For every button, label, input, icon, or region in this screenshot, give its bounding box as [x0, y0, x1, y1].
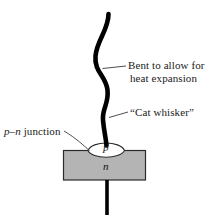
- label-heat-expansion-line2: heat expansion: [128, 72, 205, 85]
- figure-root: Bent to allow for heat expansion “Cat wh…: [0, 0, 223, 221]
- region-label-p: p: [103, 142, 109, 153]
- wavy-wire-icon: [95, 14, 108, 146]
- leader-line-bent-icon: [103, 66, 127, 69]
- label-heat-expansion-line1: Bent to allow for: [128, 59, 205, 71]
- region-label-n: n: [103, 161, 109, 172]
- leader-line-catwhisker-icon: [109, 112, 128, 118]
- label-pn-junction: p–n junction: [4, 125, 61, 138]
- label-heat-expansion: Bent to allow for heat expansion: [128, 59, 205, 85]
- leader-line-pn-icon: [64, 131, 90, 151]
- label-cat-whisker: “Cat whisker”: [130, 106, 194, 119]
- label-pn-junction-word: junction: [21, 125, 61, 137]
